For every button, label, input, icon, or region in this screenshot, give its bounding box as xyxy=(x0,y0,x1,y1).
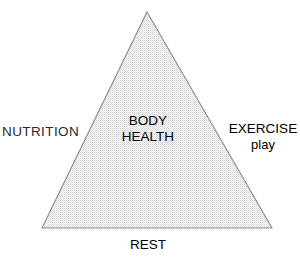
center-label-line2: HEALTH xyxy=(0,129,296,144)
center-label-line1: BODY xyxy=(0,113,296,128)
health-triangle-diagram: NUTRITION EXERCISE play BODY HEALTH REST xyxy=(0,0,300,261)
vertex-label-rest: REST xyxy=(130,237,166,252)
center-label-group: BODY HEALTH xyxy=(0,113,296,144)
vertex-label-rest-group: REST xyxy=(0,235,296,253)
